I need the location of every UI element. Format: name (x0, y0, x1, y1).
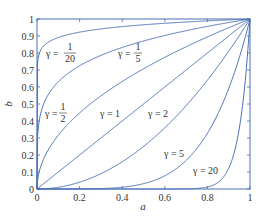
y-axis-label: b (2, 101, 14, 107)
y-tick-label: 0.5 (22, 99, 35, 110)
chart-canvas: 00.20.40.60.8100.10.20.30.40.50.60.70.80… (0, 0, 262, 217)
label-gamma-1-20-den: 20 (65, 53, 75, 64)
label-gamma-1-20-num: 1 (68, 41, 73, 52)
y-tick-label: 0.7 (22, 65, 35, 76)
x-tick-label: 0.2 (73, 192, 86, 203)
label-gamma-5: γ = 5 (163, 148, 184, 159)
label-gamma-1-5-den: 5 (136, 53, 141, 64)
label-gamma-1-20-lhs: γ = (45, 48, 59, 59)
x-axis-label: a (140, 200, 146, 212)
x-tick-label: 0.6 (159, 192, 172, 203)
y-tick-label: 1 (29, 14, 34, 25)
y-tick-label: 0.3 (22, 133, 35, 144)
label-gamma-1-5-lhs: γ = (117, 48, 131, 59)
label-gamma-1-2-num: 1 (61, 101, 66, 112)
x-tick-label: 0.4 (116, 192, 129, 203)
y-tick-label: 0.1 (22, 167, 35, 178)
label-gamma-1-2-den: 2 (61, 113, 66, 124)
y-tick-label: 0.2 (22, 150, 35, 161)
y-tick-label: 0.4 (22, 116, 35, 127)
y-tick-label: 0.9 (22, 31, 35, 42)
label-gamma-2: γ = 2 (147, 108, 168, 119)
x-tick-label: 1 (248, 192, 253, 203)
label-gamma-1-5-num: 1 (136, 41, 141, 52)
label-gamma-1: γ = 1 (99, 108, 120, 119)
label-gamma-1-5: γ = 1 5 (117, 41, 142, 64)
label-gamma-20: γ = 20 (192, 165, 218, 176)
x-tick-label: 0.8 (201, 192, 214, 203)
label-gamma-1-2-lhs: γ = (44, 108, 58, 119)
y-tick-label: 0.6 (22, 82, 35, 93)
y-tick-label: 0 (29, 184, 34, 195)
label-gamma-1-20: γ = 1 20 (45, 41, 76, 64)
label-gamma-1-2: γ = 1 2 (44, 101, 67, 124)
x-tick-label: 0 (35, 192, 40, 203)
y-tick-label: 0.8 (22, 48, 35, 59)
